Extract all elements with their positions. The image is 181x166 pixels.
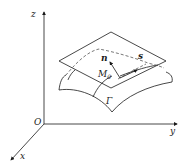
diagram-canvas: z y x O n s M0 Γ [0,0,181,166]
normal-vector [110,62,120,78]
origin-label: O [34,117,42,127]
tangent-plane [59,32,166,88]
tangent-curve-s [66,49,164,75]
x-axis [11,124,44,160]
surface-label: Γ [105,96,113,106]
normal-label: n [101,53,108,63]
tangent-label: s [138,51,143,61]
y-axis-label: y [169,126,176,136]
x-axis-label: x [20,151,25,161]
surface-gamma [59,65,172,112]
axes [11,12,177,160]
z-axis-label: z [30,9,36,19]
point-label: M0 [97,69,111,80]
